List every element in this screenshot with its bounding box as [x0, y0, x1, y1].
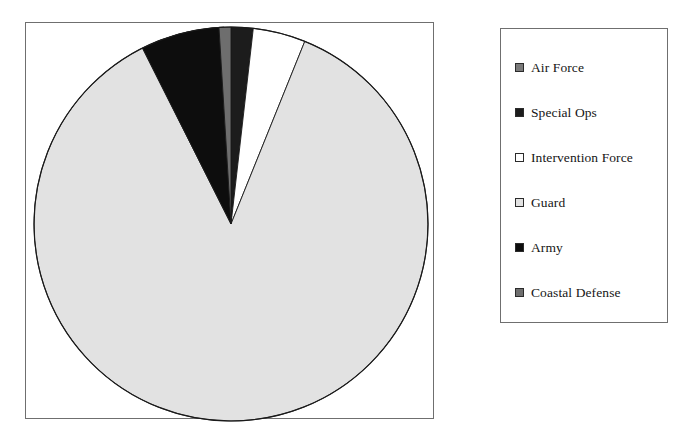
- legend-label-intervention-force: Intervention Force: [531, 135, 633, 180]
- legend-item-guard[interactable]: Guard: [515, 180, 667, 225]
- legend-item-air-force[interactable]: Air Force: [515, 45, 667, 90]
- legend-label-army: Army: [531, 225, 563, 270]
- legend-swatch-air-force-icon: [515, 63, 524, 72]
- legend-swatch-guard-icon: [515, 198, 524, 207]
- legend-item-special-ops[interactable]: Special Ops: [515, 90, 667, 135]
- legend-swatch-special-ops-icon: [515, 108, 524, 117]
- legend-label-guard: Guard: [531, 180, 565, 225]
- legend-swatch-coastal-defense-icon: [515, 288, 524, 297]
- legend-label-air-force: Air Force: [531, 45, 584, 90]
- legend-label-special-ops: Special Ops: [531, 90, 597, 135]
- legend-item-intervention-force[interactable]: Intervention Force: [515, 135, 667, 180]
- pie-chart-plot-area: [25, 22, 434, 419]
- legend-swatch-intervention-force-icon: [515, 153, 524, 162]
- legend-swatch-army-icon: [515, 243, 524, 252]
- legend-item-coastal-defense[interactable]: Coastal Defense: [515, 270, 667, 315]
- legend-item-army[interactable]: Army: [515, 225, 667, 270]
- legend-label-coastal-defense: Coastal Defense: [531, 270, 621, 315]
- chart-legend: Air Force Special Ops Intervention Force…: [500, 28, 668, 323]
